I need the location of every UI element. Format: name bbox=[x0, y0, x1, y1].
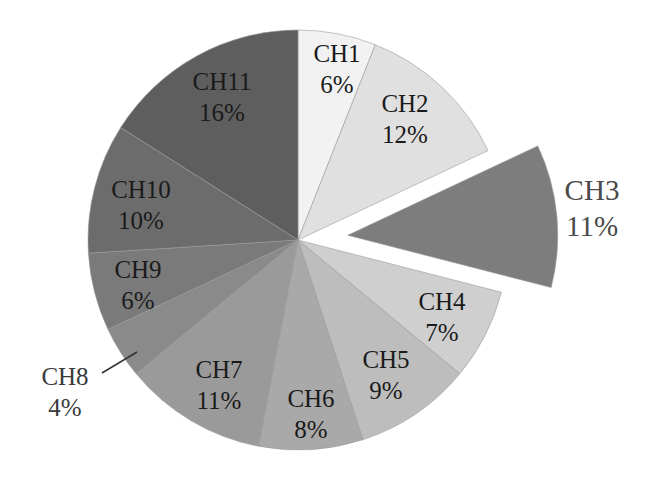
label-name: CH11 bbox=[193, 68, 252, 95]
label-percent: 11% bbox=[197, 387, 242, 414]
label-percent: 6% bbox=[320, 71, 353, 98]
label-ch3: CH311% bbox=[565, 174, 620, 242]
label-name: CH7 bbox=[195, 356, 242, 383]
label-percent: 10% bbox=[118, 207, 164, 234]
label-name: CH4 bbox=[418, 288, 466, 315]
label-name: CH8 bbox=[41, 363, 88, 390]
label-percent: 9% bbox=[369, 377, 402, 404]
label-name: CH3 bbox=[565, 174, 620, 206]
label-name: CH2 bbox=[381, 90, 428, 117]
label-percent: 11% bbox=[566, 210, 618, 242]
label-ch8: CH84% bbox=[41, 363, 88, 421]
label-percent: 8% bbox=[294, 416, 327, 443]
label-name: CH1 bbox=[313, 40, 360, 67]
label-percent: 7% bbox=[425, 319, 458, 346]
label-name: CH5 bbox=[362, 346, 409, 373]
label-name: CH9 bbox=[114, 256, 161, 283]
pie-chart: CH16%CH212%CH311%CH47%CH59%CH68%CH711%CH… bbox=[0, 0, 664, 483]
label-name: CH10 bbox=[111, 176, 171, 203]
label-percent: 16% bbox=[199, 99, 245, 126]
label-name: CH6 bbox=[287, 385, 334, 412]
label-percent: 4% bbox=[48, 394, 81, 421]
label-percent: 6% bbox=[121, 287, 154, 314]
label-percent: 12% bbox=[382, 121, 428, 148]
